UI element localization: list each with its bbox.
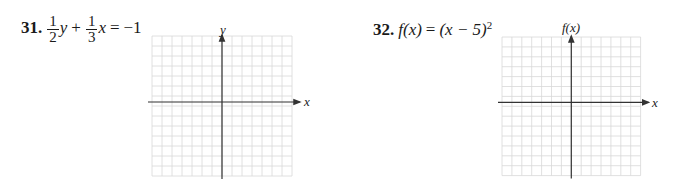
coordinate-grid-31 (148, 35, 300, 179)
graph-canvas: x y x f(x) (0, 0, 673, 182)
x-axis-label: x (651, 95, 658, 110)
fx-axis-label: f(x) (562, 20, 580, 35)
x-axis-label: x (303, 94, 310, 109)
y-axis-label: y (218, 22, 226, 37)
coordinate-grid-32 (498, 36, 649, 179)
